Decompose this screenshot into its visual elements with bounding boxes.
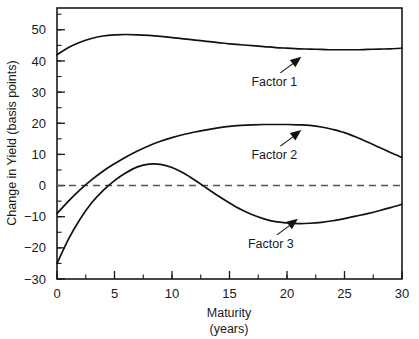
factor-yield-curve-chart: −30−20−1001020304050 051015202530 Factor…	[0, 0, 419, 339]
y-tick-label: 50	[32, 22, 46, 37]
y-tick-label: −30	[24, 272, 46, 287]
curve-factor-3	[57, 164, 402, 264]
y-tick-label: 20	[32, 116, 46, 131]
annotation-arrowhead	[290, 130, 302, 140]
curve-factor-1	[57, 34, 402, 54]
y-axis-tick-labels: −30−20−1001020304050	[24, 22, 46, 286]
series-label-factor-3: Factor 3	[248, 237, 294, 251]
y-tick-label: 30	[32, 85, 46, 100]
y-tick-label: −10	[24, 209, 46, 224]
series-label-factor-1: Factor 1	[251, 75, 297, 89]
major-tick-marks	[57, 30, 402, 279]
chart-canvas: −30−20−1001020304050 051015202530 Factor…	[0, 0, 419, 339]
data-curves	[57, 34, 402, 263]
y-tick-label: 10	[32, 147, 46, 162]
series-label-factor-2: Factor 2	[251, 148, 297, 162]
x-tick-label: 10	[165, 286, 179, 301]
x-tick-label: 30	[395, 286, 409, 301]
y-tick-label: 40	[32, 54, 46, 69]
minor-tick-marks	[57, 14, 402, 279]
x-tick-label: 25	[337, 286, 351, 301]
x-axis-title-units: (years)	[210, 322, 249, 336]
x-axis-title: Maturity	[207, 306, 252, 320]
x-tick-label: 15	[222, 286, 236, 301]
x-axis-tick-labels: 051015202530	[53, 286, 409, 301]
y-tick-label: 0	[39, 178, 46, 193]
y-tick-label: −20	[24, 240, 46, 255]
annotation-arrowhead	[290, 57, 302, 67]
plot-frame	[57, 8, 402, 279]
x-tick-label: 0	[53, 286, 60, 301]
x-tick-label: 20	[280, 286, 294, 301]
y-axis-title: Change in Yield (basis points)	[5, 60, 19, 225]
x-tick-label: 5	[111, 286, 118, 301]
curve-factor-2	[57, 124, 402, 213]
